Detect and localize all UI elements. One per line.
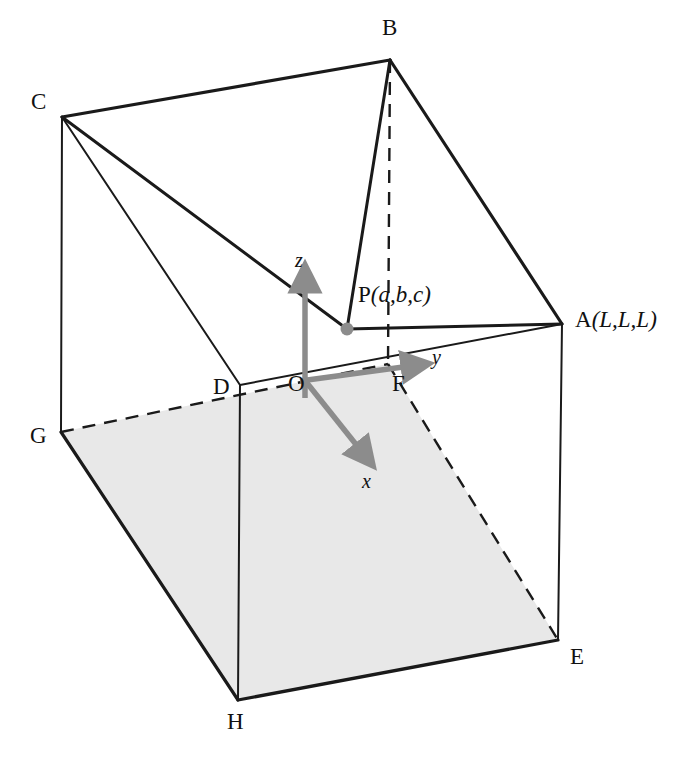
vertex-label-a: A(L,L,L) bbox=[575, 308, 657, 331]
axis-label-x: x bbox=[362, 471, 371, 491]
vertex-label-f: F bbox=[392, 372, 405, 395]
cube-diagram-svg bbox=[0, 0, 690, 762]
axis-label-z: z bbox=[295, 250, 303, 270]
figure-canvas: C B D O F G E H A(L,L,L) P(a,b,c) z y x bbox=[0, 0, 690, 762]
vertex-label-a-coords: (L,L,L) bbox=[592, 307, 657, 332]
vertex-label-p-letter: P bbox=[358, 282, 371, 307]
construction-lines bbox=[62, 60, 562, 329]
vertex-label-e: E bbox=[570, 645, 584, 668]
vertex-label-b: B bbox=[382, 16, 397, 39]
vertex-label-a-letter: A bbox=[575, 307, 592, 332]
axis-label-y: y bbox=[432, 347, 441, 367]
vertex-label-h: H bbox=[227, 710, 244, 733]
shaded-base-face bbox=[61, 364, 558, 700]
point-p-marker bbox=[341, 323, 354, 336]
vertex-label-d: D bbox=[213, 375, 230, 398]
vertex-label-g: G bbox=[30, 424, 47, 447]
vertex-label-p-coords: (a,b,c) bbox=[371, 282, 431, 307]
vertex-label-o: O bbox=[288, 372, 305, 395]
vertex-label-p: P(a,b,c) bbox=[358, 283, 431, 306]
vertex-label-c: C bbox=[31, 90, 46, 113]
